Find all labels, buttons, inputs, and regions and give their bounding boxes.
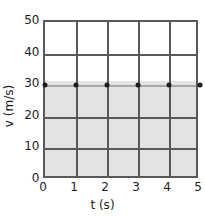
x-tick-label: 3 <box>132 180 140 194</box>
y-tick-label: 30 <box>24 76 39 90</box>
gridline-vertical <box>76 22 78 176</box>
gridline-vertical <box>169 22 171 176</box>
y-tick-label: 10 <box>24 139 39 153</box>
velocity-series-line <box>45 85 196 87</box>
x-tick-label: 2 <box>101 180 109 194</box>
x-tick-label: 4 <box>163 180 171 194</box>
y-tick-label: 40 <box>24 45 39 59</box>
data-point-marker <box>167 83 172 88</box>
y-tick-label: 50 <box>24 13 39 27</box>
data-point-marker <box>198 83 203 88</box>
x-tick-label: 1 <box>70 180 78 194</box>
data-point-marker <box>136 83 141 88</box>
x-tick-label: 0 <box>39 180 47 194</box>
data-point-marker <box>74 83 79 88</box>
gridline-vertical <box>107 22 109 176</box>
plot-area <box>43 20 198 178</box>
gridline-horizontal <box>45 117 196 119</box>
x-axis-title: t (s) <box>0 198 205 212</box>
area-under-curve-shading <box>45 81 196 176</box>
velocity-time-chart: 0 10 20 30 40 50 v (m/s) 0 1 2 3 <box>0 0 205 217</box>
gridline-horizontal <box>45 148 196 150</box>
gridline-vertical <box>138 22 140 176</box>
x-axis-tick-labels: 0 1 2 3 4 5 <box>0 180 205 200</box>
data-point-marker <box>43 83 48 88</box>
gridline-horizontal <box>45 54 196 56</box>
data-point-marker <box>105 83 110 88</box>
y-tick-label: 20 <box>24 108 39 122</box>
x-tick-label: 5 <box>194 180 202 194</box>
y-axis-title: v (m/s) <box>2 78 16 134</box>
